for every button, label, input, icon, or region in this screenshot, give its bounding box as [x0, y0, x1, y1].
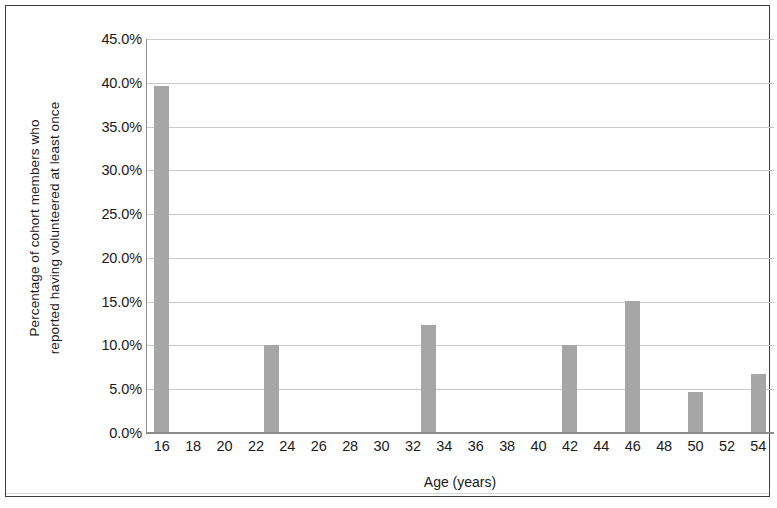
x-axis-title: Age (years): [146, 474, 774, 490]
y-axis-title-text: Percentage of cohort members who reporte…: [25, 102, 64, 355]
x-axis-tick-label: 48: [656, 438, 672, 454]
x-axis-tick-label: 18: [185, 438, 201, 454]
bar: [154, 86, 169, 433]
x-axis-tick-label: 44: [593, 438, 609, 454]
bar: [625, 301, 640, 433]
x-axis-tick-label: 54: [750, 438, 766, 454]
chart-figure: Percentage of cohort members who reporte…: [0, 0, 777, 508]
y-axis-tick-label: 10.0%: [101, 337, 142, 353]
x-axis-tick-label: 38: [499, 438, 515, 454]
x-axis-line: [146, 432, 774, 433]
x-axis-tick-label: 42: [562, 438, 578, 454]
x-axis-tick-label: 34: [436, 438, 452, 454]
chart-border: Percentage of cohort members who reporte…: [5, 5, 770, 497]
x-axis-tick-label: 46: [625, 438, 641, 454]
gridline: [146, 433, 774, 434]
x-axis-tick-label: 30: [374, 438, 390, 454]
x-axis-tick-label: 22: [248, 438, 264, 454]
x-axis-tick-label: 52: [719, 438, 735, 454]
x-axis-tick-label: 26: [311, 438, 327, 454]
x-axis-tick-label: 24: [279, 438, 295, 454]
y-axis-tick-label: 20.0%: [101, 250, 142, 266]
bar: [688, 392, 703, 433]
y-axis-tick-label: 15.0%: [101, 294, 142, 310]
bar: [751, 374, 766, 433]
y-axis-tick-label: 0.0%: [109, 425, 142, 441]
y-axis-tick-labels: 0.0%5.0%10.0%15.0%20.0%25.0%30.0%35.0%40…: [80, 28, 142, 438]
bar: [421, 325, 436, 433]
plot-area: [146, 39, 774, 433]
y-axis-tick-label: 45.0%: [101, 31, 142, 47]
x-axis-tick-label: 32: [405, 438, 421, 454]
x-axis-tick-label: 28: [342, 438, 358, 454]
bar: [264, 345, 279, 433]
y-axis-tick-label: 40.0%: [101, 75, 142, 91]
x-axis-tick-label: 20: [217, 438, 233, 454]
y-axis-tick-label: 25.0%: [101, 206, 142, 222]
y-axis-title: Percentage of cohort members who reporte…: [20, 48, 70, 408]
y-axis-tick-label: 5.0%: [109, 381, 142, 397]
y-axis-tick-label: 35.0%: [101, 119, 142, 135]
x-axis-tick-label: 36: [468, 438, 484, 454]
scan-edge-artifact: [6, 493, 769, 494]
x-axis-tick-labels: 1618202224262830323436384042444648505254: [146, 438, 774, 462]
x-axis-tick-label: 40: [531, 438, 547, 454]
bar: [562, 345, 577, 433]
y-axis-line: [146, 39, 147, 433]
y-axis-tick-label: 30.0%: [101, 162, 142, 178]
bars-layer: [146, 39, 774, 433]
x-axis-tick-label: 16: [154, 438, 170, 454]
x-axis-tick-label: 50: [688, 438, 704, 454]
